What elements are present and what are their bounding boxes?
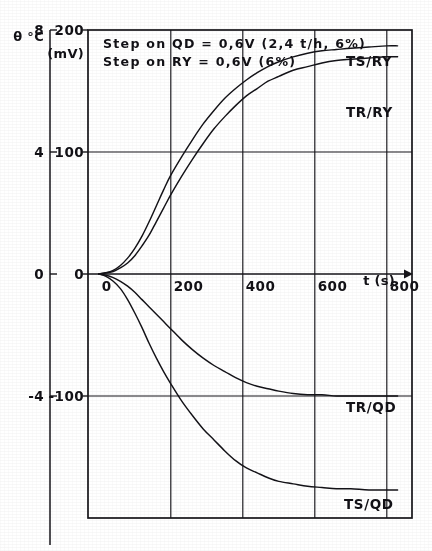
degc-tick-label: 4 — [34, 144, 44, 160]
chart-canvas: 8 4 0 -4 200 100 0 -100 θ °C (mV) t (s) … — [0, 0, 432, 551]
mv-tick-label: -100 — [49, 388, 84, 404]
annotation-line: Step on QD = 0,6V (2,4 t/h, 6%) — [103, 36, 366, 51]
degc-tick-labels: 8 4 0 -4 — [28, 22, 44, 404]
curve-tr-ry — [99, 57, 398, 274]
mv-tick-label: 100 — [55, 144, 84, 160]
x-tick-label: 600 — [318, 278, 347, 294]
mv-tick-labels: 200 100 0 -100 — [49, 22, 84, 404]
x-tick-label: 200 — [174, 278, 203, 294]
degc-tick-marks — [50, 30, 57, 396]
y-axis-mv-title: (mV) — [47, 46, 84, 61]
degc-tick-label: -4 — [28, 388, 44, 404]
curve-label-tr-ry: TR/RY — [346, 104, 393, 120]
curve-ts-qd — [99, 274, 398, 490]
curve-label-ts-ry: TS/RY — [346, 53, 392, 69]
x-tick-label: 800 — [390, 278, 419, 294]
x-tick-label: 400 — [246, 278, 275, 294]
annotation-line: Step on RY = 0,6V (6%) — [103, 54, 296, 69]
annotation-block: Step on QD = 0,6V (2,4 t/h, 6%) Step on … — [103, 36, 366, 69]
mv-tick-label: 0 — [74, 266, 84, 282]
curve-ts-ry — [99, 46, 398, 274]
curve-label-tr-qd: TR/QD — [346, 399, 396, 415]
y-axis-degc-title: θ °C — [13, 29, 44, 44]
degc-tick-label: 0 — [34, 266, 44, 282]
x-tick-label: 0 — [102, 278, 112, 294]
chart-figure: 8 4 0 -4 200 100 0 -100 θ °C (mV) t (s) … — [0, 0, 432, 551]
mv-tick-label: 200 — [55, 22, 84, 38]
curve-label-ts-qd: TS/QD — [344, 496, 394, 512]
